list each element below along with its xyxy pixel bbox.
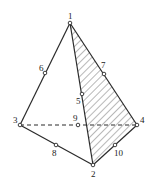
node-9-label: 9: [73, 113, 78, 123]
node-1-label: 1: [68, 11, 73, 21]
node-6-label: 6: [39, 63, 44, 73]
node-5-marker: [80, 92, 84, 96]
node-3-marker: [18, 123, 22, 127]
node-8-marker: [54, 143, 58, 147]
node-3-label: 3: [13, 115, 18, 125]
node-10-marker: [113, 143, 117, 147]
node-1-marker: [68, 21, 72, 25]
node-7-label: 7: [101, 60, 106, 70]
node-4-marker: [135, 123, 139, 127]
node-7-marker: [102, 72, 106, 76]
node-2-marker: [91, 163, 95, 167]
node-4-label: 4: [140, 115, 145, 125]
node-5-label: 5: [76, 96, 81, 106]
node-2-label: 2: [91, 169, 96, 179]
node-6-marker: [43, 71, 47, 75]
node-9-marker: [76, 123, 80, 127]
node-10-label: 10: [114, 148, 124, 158]
tetrahedron-diagram: 12345678910: [0, 0, 152, 188]
node-8-label: 8: [52, 148, 57, 158]
